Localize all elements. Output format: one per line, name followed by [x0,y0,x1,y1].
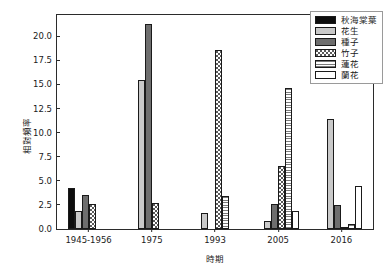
bar-group [131,15,173,229]
x-tick-label: 1945-1956 [65,229,111,245]
legend-label: 蘭花 [341,70,359,80]
bar [264,221,271,229]
legend-label: 花生 [341,26,359,36]
bar [222,196,229,229]
legend-item: 秋海棠葉 [315,15,377,25]
legend-swatch [315,16,336,24]
x-tick-label: 1975 [141,229,163,245]
legend-label: 秋海棠葉 [341,15,377,25]
x-tick-label: 1993 [204,229,226,245]
bar-group [68,15,110,229]
legend-swatch [315,49,336,57]
y-tick-label: 12.5 [33,104,57,114]
legend-item: 種子 [315,37,377,47]
bar-group [257,15,299,229]
legend-label: 蓮花 [341,59,359,69]
legend-item: 花生 [315,26,377,36]
chart-legend: 秋海棠葉花生種子竹子蓮花蘭花 [310,11,383,84]
bar [215,50,222,229]
bar [152,203,159,229]
legend-swatch [315,60,336,68]
y-tick-label: 15.0 [33,79,57,89]
legend-item: 竹子 [315,48,377,58]
legend-item: 蓮花 [315,59,377,69]
legend-swatch [315,27,336,35]
y-tick-label: 7.5 [38,152,57,162]
bar [68,188,75,229]
bar-group [194,15,236,229]
legend-item: 蘭花 [315,70,377,80]
bar [285,88,292,229]
y-tick-label: 10.0 [33,128,57,138]
bar [292,211,299,229]
y-tick-label: 20.0 [33,31,57,41]
bar [82,195,89,229]
bar-chart-figure: 相對頻率 0.02.55.07.510.012.515.017.520.0 19… [0,0,388,272]
bar [327,119,334,229]
legend-label: 種子 [341,37,359,47]
x-axis-label: 時期 [56,252,374,264]
bar [271,204,278,229]
bar [145,24,152,229]
y-tick-label: 17.5 [33,55,57,65]
bar [75,211,82,229]
bar [201,213,208,229]
x-tick-label: 2016 [331,229,353,245]
y-axis-label: 相對頻率 [20,118,32,154]
y-tick-label: 0.0 [38,224,57,234]
legend-swatch [315,38,336,46]
bar [334,205,341,229]
bar [89,204,96,229]
bar [355,186,362,229]
legend-swatch [315,71,336,79]
x-tick-label: 2005 [267,229,289,245]
y-tick-label: 2.5 [38,200,57,210]
bar [138,80,145,229]
bar [278,166,285,229]
y-tick-label: 5.0 [38,176,57,186]
legend-label: 竹子 [341,48,359,58]
